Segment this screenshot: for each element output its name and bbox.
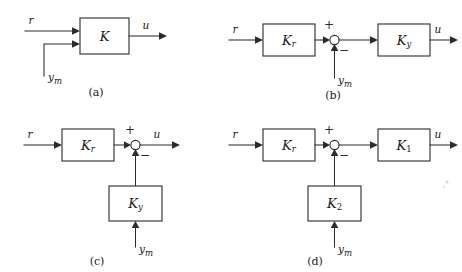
block-diagram-svg: r ym K u (a) r Kr: [0, 0, 462, 272]
panel-c-sum-input-arrowhead: [124, 141, 131, 149]
panel-c-output-label: u: [154, 128, 161, 140]
panel-a-output-arrowhead: [159, 32, 167, 40]
panel-a-output-label: u: [143, 19, 150, 31]
panel-c-output-arrowhead: [172, 141, 180, 149]
panel-a: r ym K u (a): [25, 14, 167, 99]
panel-b-sum-output-arrowhead: [370, 36, 378, 44]
panel-d-reference-label: r: [232, 128, 238, 140]
panel-c-measurement-arrowhead: [132, 221, 140, 228]
panel-d: r Kr + − K2 ym K: [229, 123, 458, 268]
panel-d-summing-junction: [330, 140, 339, 149]
panel-d-sum-input-arrowhead: [323, 141, 330, 149]
panel-b-measurement-arrowhead: [331, 44, 339, 51]
panel-c: r Kr + − Ky ym u: [24, 123, 180, 268]
panel-b-reference-label: r: [232, 23, 238, 35]
panel-c-summing-junction: [131, 140, 140, 149]
panel-c-measurement-label: ym: [138, 243, 153, 258]
panel-b-output-label: u: [435, 23, 442, 35]
panel-c-reference-arrowhead: [54, 141, 62, 149]
panel-c-sum-minus-sign: −: [140, 148, 150, 162]
panel-b-caption: (b): [325, 89, 341, 102]
panel-c-feedback-arrowhead: [132, 149, 140, 156]
panel-b-sum-plus-sign: +: [324, 18, 334, 32]
panel-d-output-label: u: [435, 128, 442, 140]
panel-a-block-K-label: K: [99, 28, 111, 43]
panel-b-measurement-label: ym: [337, 74, 352, 89]
panel-b-sum-minus-sign: −: [339, 43, 349, 57]
panel-a-measurement-arrowhead: [72, 40, 80, 48]
panel-d-sum-minus-sign: −: [339, 148, 349, 162]
panel-b-reference-arrowhead: [255, 36, 263, 44]
scan-artifact: [443, 180, 449, 188]
panel-b: r Kr + − ym Ky u: [229, 18, 458, 102]
panel-a-reference-arrowhead: [72, 27, 80, 35]
panel-d-feedback-arrowhead: [331, 149, 339, 156]
block-diagram-figure: r ym K u (a) r Kr: [0, 0, 462, 272]
panel-b-summing-junction: [330, 35, 339, 44]
panel-c-reference-label: r: [27, 128, 33, 140]
panel-a-reference-label: r: [28, 14, 34, 26]
panel-d-caption: (d): [307, 255, 323, 268]
panel-c-caption: (c): [90, 255, 105, 268]
panel-d-sum-plus-sign: +: [324, 123, 334, 137]
panel-d-reference-arrowhead: [255, 141, 263, 149]
panel-b-sum-input-arrowhead: [323, 36, 330, 44]
panel-d-sum-output-arrowhead: [370, 141, 378, 149]
panel-a-measurement-label: ym: [47, 71, 62, 86]
panel-d-measurement-arrowhead: [331, 221, 339, 228]
panel-d-measurement-label: ym: [337, 243, 352, 258]
panel-a-caption: (a): [88, 86, 103, 99]
panel-d-output-arrowhead: [450, 141, 458, 149]
panel-c-sum-plus-sign: +: [125, 123, 135, 137]
panel-b-output-arrowhead: [450, 36, 458, 44]
